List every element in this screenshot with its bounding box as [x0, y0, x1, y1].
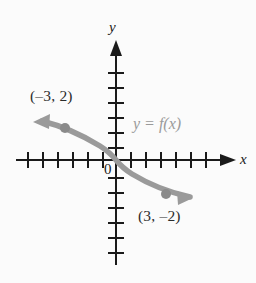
coordinate-plane-svg — [0, 0, 256, 283]
function-label: y = f(x) — [133, 116, 181, 132]
point-label-left: (–3, 2) — [30, 88, 73, 104]
curve-left-arrowhead — [33, 114, 50, 129]
y-axis-label: y — [109, 20, 116, 35]
data-point-right — [161, 189, 171, 199]
point-label-right: (3, –2) — [138, 208, 181, 224]
y-axis-arrowhead — [110, 40, 122, 56]
graph-figure: y x 0 (–3, 2) (3, –2) y = f(x) — [0, 0, 256, 283]
origin-label: 0 — [104, 162, 112, 177]
x-axis-label: x — [240, 152, 247, 167]
x-axis-arrowhead — [220, 154, 236, 166]
data-point-left — [60, 123, 70, 133]
